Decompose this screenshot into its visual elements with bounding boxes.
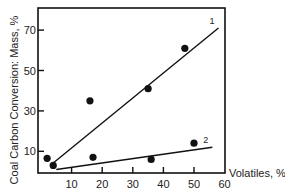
data-point bbox=[190, 140, 197, 147]
data-point bbox=[181, 45, 188, 52]
x-tick-label: 10 bbox=[65, 178, 77, 190]
y-tick-label: 30 bbox=[24, 105, 36, 117]
data-point bbox=[86, 97, 93, 104]
y-tick-label: 50 bbox=[24, 65, 36, 77]
fit-line-2 bbox=[56, 147, 212, 169]
data-point bbox=[148, 156, 155, 163]
series-label-1: 1 bbox=[209, 16, 214, 26]
series-label-2: 2 bbox=[203, 135, 208, 145]
x-axis-title: Volatiles, % bbox=[229, 167, 285, 179]
data-point bbox=[145, 85, 152, 92]
y-axis-title: Coal Carbon Conversion: Mass, % bbox=[8, 15, 20, 184]
chart: 10305070 102030405060 12 Coal Carbon Con… bbox=[0, 0, 285, 194]
y-axis-ticks: 10305070 bbox=[24, 24, 44, 157]
x-tick-label: 20 bbox=[96, 178, 108, 190]
plot-frame bbox=[38, 8, 225, 173]
x-tick-label: 40 bbox=[157, 178, 169, 190]
y-tick-label: 10 bbox=[24, 145, 36, 157]
x-tick-label: 60 bbox=[218, 178, 230, 190]
x-tick-label: 30 bbox=[127, 178, 139, 190]
x-tick-label: 50 bbox=[188, 178, 200, 190]
data-point bbox=[89, 154, 96, 161]
y-tick-label: 70 bbox=[24, 24, 36, 36]
data-point bbox=[44, 155, 51, 162]
data-point bbox=[50, 162, 57, 169]
x-axis-ticks: 102030405060 bbox=[65, 167, 230, 190]
plot-border bbox=[38, 8, 225, 173]
